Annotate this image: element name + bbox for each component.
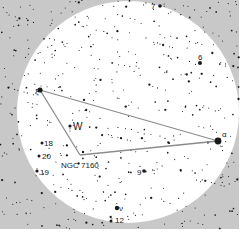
faint-star	[51, 23, 52, 24]
faint-star	[154, 170, 155, 171]
faint-star	[79, 190, 80, 191]
faint-star	[66, 144, 68, 146]
faint-star	[140, 204, 141, 205]
faint-star	[238, 56, 240, 58]
faint-star	[36, 168, 37, 169]
faint-star	[52, 57, 53, 58]
faint-star	[38, 53, 39, 54]
faint-star	[159, 66, 161, 68]
faint-star	[72, 11, 73, 12]
faint-star	[230, 136, 231, 137]
star-label: 20	[42, 152, 51, 161]
faint-star	[222, 40, 223, 41]
faint-star	[96, 30, 97, 31]
faint-star	[163, 54, 164, 55]
star-label: 6	[198, 53, 203, 62]
faint-star	[118, 64, 119, 65]
faint-star	[145, 2, 146, 3]
faint-star	[218, 2, 219, 3]
faint-star	[27, 102, 28, 103]
faint-star	[89, 111, 90, 112]
faint-star	[18, 121, 20, 123]
faint-star	[189, 41, 190, 42]
faint-star	[36, 118, 38, 120]
faint-star	[215, 86, 217, 88]
faint-star	[225, 63, 226, 64]
faint-star	[4, 152, 5, 153]
faint-star	[180, 169, 182, 171]
faint-star	[107, 128, 108, 129]
faint-star	[122, 15, 124, 17]
faint-star	[170, 36, 171, 37]
faint-star	[117, 137, 118, 138]
faint-star	[173, 135, 174, 136]
faint-star	[162, 44, 164, 46]
faint-star	[231, 210, 233, 212]
faint-star	[55, 78, 56, 79]
faint-star	[133, 212, 134, 213]
faint-star	[92, 224, 94, 226]
faint-star	[55, 203, 56, 204]
faint-star	[69, 1, 70, 2]
faint-star	[233, 53, 235, 55]
faint-star	[88, 18, 89, 19]
faint-star	[34, 84, 35, 85]
faint-star	[136, 66, 137, 67]
faint-star	[205, 195, 206, 196]
faint-star	[53, 175, 54, 176]
faint-star	[25, 212, 26, 213]
faint-star	[69, 228, 70, 229]
faint-star	[120, 157, 122, 159]
faint-star	[6, 12, 7, 13]
faint-star	[168, 13, 169, 14]
faint-star	[1, 179, 3, 181]
faint-star	[99, 79, 101, 81]
faint-star	[187, 158, 188, 159]
faint-star	[30, 149, 32, 151]
faint-star	[135, 215, 136, 216]
faint-star	[187, 48, 188, 49]
faint-star	[195, 64, 196, 65]
faint-star	[24, 75, 25, 76]
faint-star	[75, 16, 76, 17]
faint-star	[192, 170, 193, 171]
faint-star	[150, 134, 151, 135]
faint-star	[72, 113, 73, 114]
star-label: 9	[137, 168, 142, 177]
faint-star	[174, 159, 175, 160]
faint-star	[145, 37, 146, 38]
faint-star	[18, 148, 19, 149]
faint-star	[6, 197, 7, 198]
faint-star	[200, 181, 201, 182]
faint-star	[169, 203, 170, 204]
faint-star	[60, 153, 61, 154]
faint-star	[97, 180, 98, 181]
faint-star	[176, 37, 178, 39]
faint-star	[188, 80, 190, 82]
faint-star	[220, 108, 221, 109]
faint-star	[12, 204, 13, 205]
faint-star	[116, 30, 118, 32]
faint-star	[111, 79, 112, 80]
faint-star	[61, 13, 62, 14]
star-9	[142, 169, 146, 173]
faint-star	[138, 68, 139, 69]
faint-star	[101, 222, 103, 224]
faint-star	[4, 68, 5, 69]
faint-star	[190, 72, 192, 74]
faint-star	[54, 90, 55, 91]
faint-star	[54, 39, 55, 40]
faint-star	[63, 44, 64, 45]
faint-star	[111, 135, 112, 136]
faint-star	[71, 190, 72, 191]
faint-star	[219, 63, 221, 65]
faint-star	[117, 14, 118, 15]
faint-star	[231, 152, 233, 154]
faint-star	[32, 103, 33, 104]
faint-star	[154, 44, 155, 45]
faint-star	[159, 136, 160, 137]
faint-star	[172, 47, 173, 48]
faint-star	[41, 225, 43, 227]
faint-star	[204, 31, 205, 32]
faint-star	[27, 92, 28, 93]
